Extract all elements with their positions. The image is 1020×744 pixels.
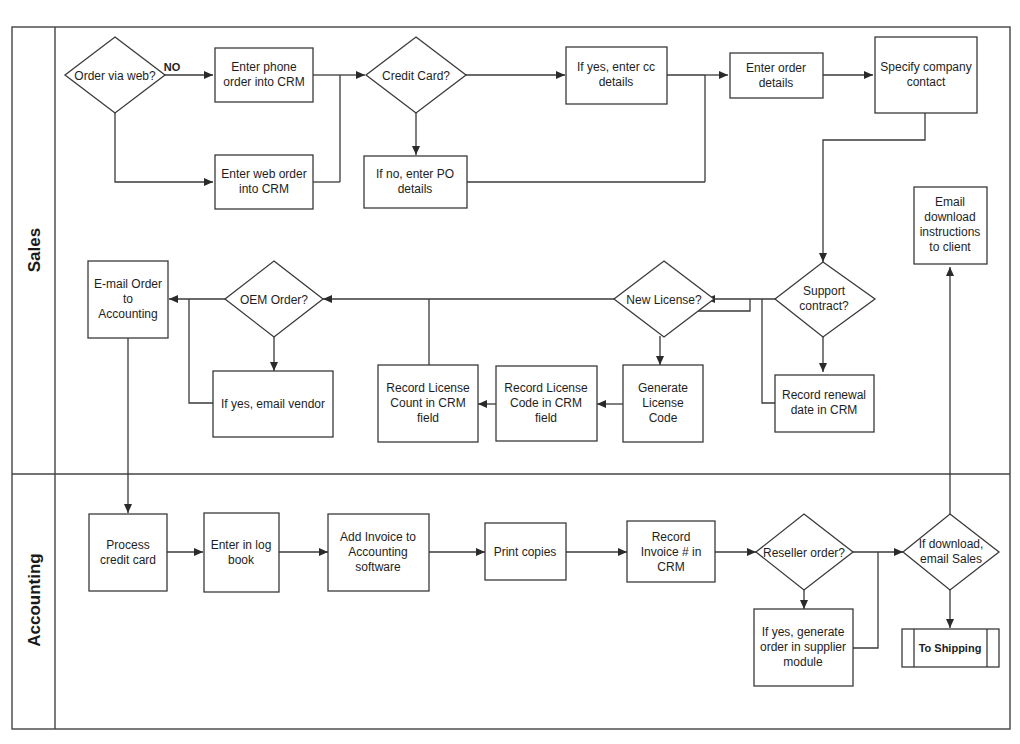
swimlane-flowchart: Sales Accounting (0, 0, 1020, 744)
decision-reseller-order[interactable]: Reseller order? (756, 514, 853, 590)
process-enter-order-details[interactable]: Enter order details (730, 53, 823, 98)
process-enter-log-book[interactable]: Enter in log book (204, 513, 279, 592)
svg-text:Enter web order: Enter web order (221, 167, 306, 181)
predefined-to-shipping[interactable]: To Shipping (902, 629, 999, 667)
decision-credit-card[interactable]: Credit Card? (366, 37, 466, 113)
process-print-copies[interactable]: Print copies (485, 523, 566, 580)
svg-text:Support: Support (803, 284, 846, 298)
svg-text:If yes, enter cc: If yes, enter cc (577, 60, 655, 74)
svg-text:Code: Code (649, 411, 678, 425)
svg-text:contact: contact (907, 75, 946, 89)
svg-text:Record: Record (652, 530, 691, 544)
svg-text:field: field (417, 411, 439, 425)
svg-text:If yes, generate: If yes, generate (762, 625, 845, 639)
process-record-license-count[interactable]: Record License Count in CRM field (378, 365, 478, 442)
lane-title-accounting: Accounting (25, 553, 44, 647)
svg-text:Generate: Generate (638, 381, 688, 395)
svg-text:order in supplier: order in supplier (760, 640, 846, 654)
svg-text:Email: Email (935, 195, 965, 209)
process-supplier-order[interactable]: If yes, generate order in supplier modul… (754, 609, 853, 686)
svg-text:OEM Order?: OEM Order? (240, 293, 308, 307)
svg-text:Record License: Record License (386, 381, 470, 395)
svg-text:contract?: contract? (799, 299, 849, 313)
svg-text:License: License (642, 396, 684, 410)
svg-text:download: download (924, 210, 975, 224)
process-enter-web-order[interactable]: Enter web order into CRM (215, 155, 313, 209)
process-add-invoice[interactable]: Add Invoice to Accounting software (328, 514, 429, 591)
svg-text:If download,: If download, (919, 537, 984, 551)
svg-text:Accounting: Accounting (98, 307, 157, 321)
decision-oem-order[interactable]: OEM Order? (225, 261, 323, 337)
svg-text:Accounting: Accounting (348, 545, 407, 559)
svg-text:Enter order: Enter order (746, 61, 806, 75)
svg-text:date in CRM: date in CRM (791, 403, 858, 417)
edge-label-no: NO (164, 61, 181, 73)
svg-text:If no, enter PO: If no, enter PO (376, 167, 454, 181)
decision-order-via-web[interactable]: Order via web? (65, 37, 165, 113)
svg-text:Credit Card?: Credit Card? (382, 69, 450, 83)
svg-text:Add Invoice to: Add Invoice to (340, 530, 416, 544)
svg-text:E-mail Order: E-mail Order (94, 277, 162, 291)
process-email-download-instructions[interactable]: Email download instructions to client (914, 187, 987, 264)
process-generate-license-code[interactable]: Generate License Code (623, 365, 703, 442)
svg-text:instructions: instructions (920, 225, 981, 239)
svg-text:Print copies: Print copies (494, 545, 557, 559)
node-label: Order via web? (74, 69, 156, 83)
svg-text:Record renewal: Record renewal (782, 388, 866, 402)
process-process-credit-card[interactable]: Process credit card (89, 514, 167, 591)
process-enter-cc-details[interactable]: If yes, enter cc details (566, 47, 667, 104)
process-record-invoice[interactable]: Record Invoice # in CRM (627, 521, 715, 582)
svg-text:credit card: credit card (100, 553, 156, 567)
process-record-renewal-date[interactable]: Record renewal date in CRM (775, 375, 874, 432)
process-email-vendor[interactable]: If yes, email vendor (213, 371, 333, 437)
svg-text:email Sales: email Sales (920, 552, 982, 566)
svg-text:details: details (599, 75, 634, 89)
svg-text:If yes, email vendor: If yes, email vendor (221, 397, 325, 411)
svg-text:Code in CRM: Code in CRM (510, 396, 582, 410)
decision-support-contract[interactable]: Support contract? (775, 262, 875, 337)
svg-text:into CRM: into CRM (239, 182, 289, 196)
svg-text:details: details (759, 76, 794, 90)
svg-text:Enter in log: Enter in log (211, 538, 272, 552)
svg-text:Specify company: Specify company (880, 60, 971, 74)
process-specify-company-contact[interactable]: Specify company contact (875, 37, 977, 113)
svg-text:order into CRM: order into CRM (223, 75, 304, 89)
svg-text:software: software (355, 560, 401, 574)
svg-text:book: book (228, 553, 255, 567)
process-enter-phone-order[interactable]: Enter phone order into CRM (215, 48, 313, 102)
svg-text:Invoice # in: Invoice # in (641, 545, 702, 559)
svg-text:Count in CRM: Count in CRM (390, 396, 465, 410)
svg-text:Enter phone: Enter phone (231, 60, 297, 74)
lane-title-sales: Sales (25, 228, 44, 272)
svg-text:New License?: New License? (626, 293, 702, 307)
svg-text:To Shipping: To Shipping (919, 642, 982, 654)
svg-text:to client: to client (929, 240, 971, 254)
decision-new-license[interactable]: New License? (614, 261, 714, 337)
svg-text:field: field (535, 411, 557, 425)
svg-text:Process: Process (106, 538, 149, 552)
svg-text:CRM: CRM (657, 560, 684, 574)
svg-text:Reseller order?: Reseller order? (763, 546, 845, 560)
process-email-order-to-accounting[interactable]: E-mail Order to Accounting (88, 261, 168, 338)
process-record-license-code[interactable]: Record License Code in CRM field (496, 366, 597, 441)
svg-text:module: module (783, 655, 823, 669)
decision-if-download[interactable]: If download, email Sales (903, 514, 999, 590)
svg-text:to: to (123, 292, 133, 306)
svg-text:details: details (398, 182, 433, 196)
svg-text:Record License: Record License (504, 381, 588, 395)
process-enter-po-details[interactable]: If no, enter PO details (364, 156, 467, 208)
